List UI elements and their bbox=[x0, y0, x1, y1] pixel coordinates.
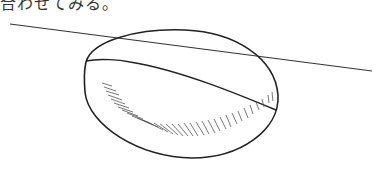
curved-section-line bbox=[86, 59, 276, 110]
outer-ellipse bbox=[84, 30, 278, 158]
hatch-shading bbox=[102, 83, 273, 136]
ellipse-sketch-figure bbox=[0, 0, 382, 179]
